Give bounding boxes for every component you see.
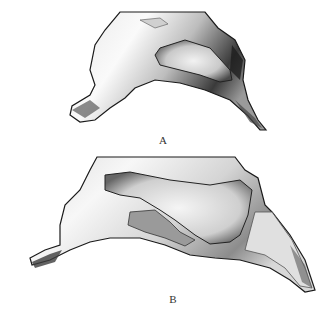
- anatomical-render-b: [0, 150, 332, 317]
- anatomical-render-a: [0, 0, 332, 150]
- figure-panel-b: B: [0, 150, 332, 317]
- panel-label-a: A: [153, 134, 173, 146]
- figure-panel-a: A: [0, 0, 332, 150]
- panel-label-b: B: [163, 293, 183, 305]
